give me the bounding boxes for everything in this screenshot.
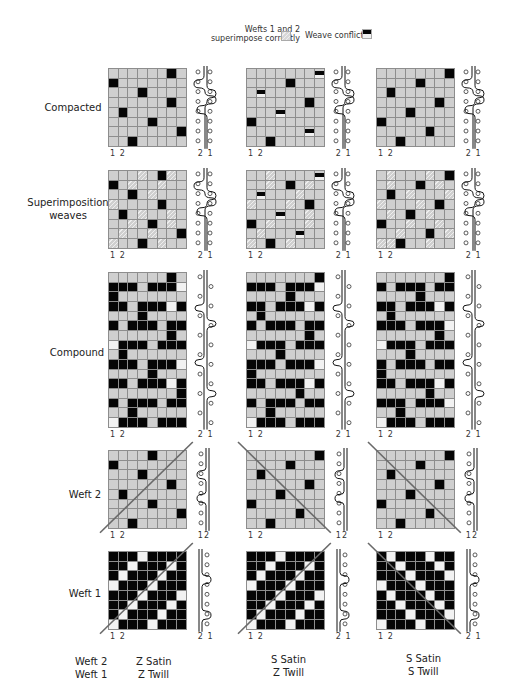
weave-cell (435, 98, 444, 107)
weave-cell (247, 360, 256, 369)
weave-cell (119, 408, 128, 417)
weave-cell (315, 283, 324, 292)
weave-cell (305, 98, 314, 107)
weave-cell (416, 292, 425, 301)
weave-cell (138, 350, 147, 359)
weave-cell (416, 283, 425, 292)
weave-cell (286, 200, 295, 209)
weave-cell (315, 171, 324, 180)
weave-cell (445, 69, 454, 78)
weave-cell (377, 331, 386, 340)
weave-cell (177, 229, 186, 238)
weave-cell (305, 88, 314, 97)
weave-cell (266, 350, 275, 359)
weave-cell (286, 399, 295, 408)
weave-cell (266, 389, 275, 398)
weave-cell (128, 181, 137, 190)
weave-cell (286, 360, 295, 369)
weave-cell (296, 200, 305, 209)
weave-cell (276, 229, 285, 238)
weave-cell (266, 118, 275, 127)
weave-cell (119, 98, 128, 107)
weave-cell (158, 273, 167, 282)
weave-cell (377, 108, 386, 117)
weave-cell (177, 137, 186, 146)
weave-cell (406, 181, 415, 190)
weave-cell (315, 341, 324, 350)
weft-cross-section-icon (331, 66, 357, 149)
weft-index-label: 2 1 (336, 149, 352, 158)
weave-cell (119, 389, 128, 398)
weave-cell (148, 181, 157, 190)
weave-cell (296, 389, 305, 398)
weave-cell (445, 350, 454, 359)
weave-cell (158, 283, 167, 292)
weave-cell (177, 127, 186, 136)
weave-cell (387, 350, 396, 359)
weave-cell (109, 273, 118, 282)
weave-cell (247, 273, 256, 282)
weave-cell (109, 127, 118, 136)
weave-cell (445, 389, 454, 398)
weave-cell (315, 210, 324, 219)
weave-cell (296, 220, 305, 229)
weave-cell (257, 220, 266, 229)
weave-cell (276, 181, 285, 190)
weave-cell (167, 360, 176, 369)
weave-cell (426, 79, 435, 88)
footer-col2-weft2: S Satin (271, 653, 306, 666)
weave-cell (286, 312, 295, 321)
weave-cell (406, 331, 415, 340)
weave-cell (445, 370, 454, 379)
weave-cell (109, 331, 118, 340)
weave-cell (148, 389, 157, 398)
weave-cell (109, 418, 118, 427)
weave-cell (177, 69, 186, 78)
weave-cell (257, 408, 266, 417)
weave-cell (387, 331, 396, 340)
weft-index-label: 12 (198, 531, 210, 540)
weave-cell (286, 98, 295, 107)
weave-cell (148, 370, 157, 379)
weave-cell (435, 171, 444, 180)
weave-cell (257, 137, 266, 146)
weave-cell (119, 292, 128, 301)
weave-cell (148, 190, 157, 199)
weave-cell (266, 360, 275, 369)
weave-cell (387, 302, 396, 311)
weave-cell (167, 273, 176, 282)
compound-grid-2 (246, 272, 325, 428)
weave-cell (109, 137, 118, 146)
weave-cell (109, 239, 118, 248)
weave-cell (416, 370, 425, 379)
weave-cell (416, 389, 425, 398)
weave-cell (167, 210, 176, 219)
weave-cell (138, 181, 147, 190)
weave-cell (276, 283, 285, 292)
weave-cell (396, 69, 405, 78)
weave-cell (396, 399, 405, 408)
weave-cell (177, 273, 186, 282)
weave-cell (109, 229, 118, 238)
weave-cell (387, 283, 396, 292)
weave-cell (315, 229, 324, 238)
weave-cell (377, 283, 386, 292)
weave-cell (435, 118, 444, 127)
weave-cell (305, 350, 314, 359)
weft-index-label: 12 (336, 531, 348, 540)
weave-cell (148, 88, 157, 97)
weave-cell (296, 283, 305, 292)
weave-cell (128, 341, 137, 350)
weave-cell (257, 418, 266, 427)
weave-cell (276, 350, 285, 359)
weave-cell (138, 229, 147, 238)
weave-cell (158, 321, 167, 330)
weave-cell (387, 408, 396, 417)
weave-cell (177, 379, 186, 388)
weave-cell (315, 292, 324, 301)
weave-cell (426, 239, 435, 248)
weave-cell (158, 127, 167, 136)
weft-cross-section-icon (461, 168, 487, 251)
weave-cell (138, 190, 147, 199)
weave-cell (266, 302, 275, 311)
